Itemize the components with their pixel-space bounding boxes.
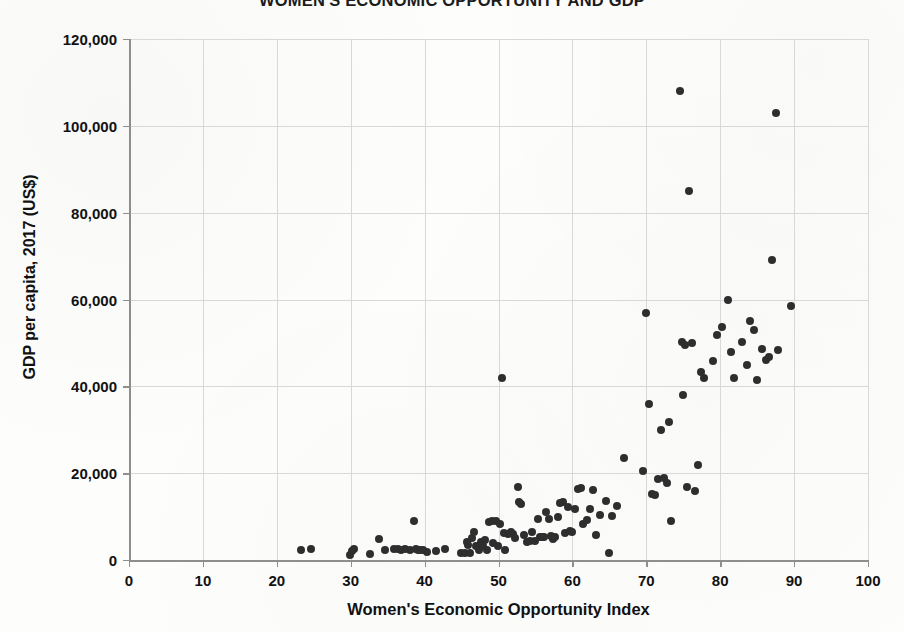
x-axis-tick xyxy=(351,560,352,567)
scatter-point xyxy=(496,520,504,528)
y-axis-tick-label: 120,000 xyxy=(0,31,117,48)
scatter-point xyxy=(645,400,653,408)
x-axis-tick-label: 80 xyxy=(690,572,750,589)
scatter-point xyxy=(718,323,726,331)
gridline-horizontal xyxy=(129,213,868,214)
x-axis-tick-label: 30 xyxy=(321,572,381,589)
gridline-vertical xyxy=(868,39,869,560)
scatter-point xyxy=(685,187,693,195)
scatter-point xyxy=(765,353,773,361)
scatter-point xyxy=(676,87,684,95)
scatter-point xyxy=(688,339,696,347)
x-axis-tick-label: 70 xyxy=(616,572,676,589)
scatter-point xyxy=(768,256,776,264)
y-axis-tick xyxy=(123,39,130,40)
x-axis-tick xyxy=(720,560,721,567)
scatter-point xyxy=(375,535,383,543)
scatter-point xyxy=(651,491,659,499)
x-axis-tick xyxy=(646,560,647,567)
gridline-horizontal xyxy=(129,126,868,127)
scatter-point xyxy=(639,467,647,475)
scatter-point xyxy=(774,346,782,354)
scatter-point xyxy=(694,461,702,469)
x-axis-tick-label: 90 xyxy=(764,572,824,589)
scatter-point xyxy=(724,296,732,304)
scatter-point xyxy=(517,500,525,508)
scatter-point xyxy=(709,357,717,365)
scatter-point xyxy=(753,376,761,384)
x-axis-title: Women's Economic Opportunity Index xyxy=(129,600,868,619)
gridline-horizontal xyxy=(129,473,868,474)
x-axis-tick-label: 60 xyxy=(542,572,602,589)
y-axis-tick-label: 80,000 xyxy=(0,204,117,221)
x-axis-tick xyxy=(203,560,204,567)
scatter-point xyxy=(683,483,691,491)
scatter-point xyxy=(470,528,478,536)
y-axis-tick-label: 0 xyxy=(0,552,117,569)
scatter-point xyxy=(750,326,758,334)
scatter-point xyxy=(423,548,431,556)
scatter-point xyxy=(511,534,519,542)
plot-area xyxy=(129,39,868,560)
x-axis-tick-label: 10 xyxy=(173,572,233,589)
scatter-point xyxy=(366,550,374,558)
scatter-point xyxy=(691,487,699,495)
x-axis-tick-label: 40 xyxy=(395,572,455,589)
x-axis-tick xyxy=(499,560,500,567)
scatter-point xyxy=(551,533,559,541)
scatter-point xyxy=(738,338,746,346)
scatter-point xyxy=(608,512,616,520)
scatter-point xyxy=(679,391,687,399)
scatter-point xyxy=(545,515,553,523)
scatter-point xyxy=(700,374,708,382)
scatter-point xyxy=(642,309,650,317)
scatter-point xyxy=(743,361,751,369)
scatter-point xyxy=(483,546,491,554)
scatter-point xyxy=(665,418,673,426)
gridline-horizontal xyxy=(129,39,868,40)
scatter-point xyxy=(730,374,738,382)
y-axis-tick-label: 40,000 xyxy=(0,378,117,395)
scatter-point xyxy=(583,516,591,524)
scatter-point xyxy=(727,348,735,356)
x-axis-tick-label: 0 xyxy=(99,572,159,589)
scatter-point xyxy=(758,345,766,353)
y-axis-tick-label: 60,000 xyxy=(0,291,117,308)
scatter-point xyxy=(663,479,671,487)
scatter-point xyxy=(534,515,542,523)
scatter-point xyxy=(481,536,489,544)
y-axis-tick xyxy=(123,126,130,127)
chart-title: WOMEN'S ECONOMIC OPPORTUNITY AND GDP xyxy=(0,0,904,10)
y-axis-tick-label: 100,000 xyxy=(0,117,117,134)
y-axis-tick-label: 20,000 xyxy=(0,465,117,482)
scatter-point xyxy=(381,546,389,554)
scatter-point xyxy=(657,426,665,434)
scatter-point xyxy=(667,517,675,525)
scatter-point xyxy=(746,317,754,325)
scatter-point xyxy=(571,505,579,513)
chart-page: WOMEN'S ECONOMIC OPPORTUNITY AND GDP GDP… xyxy=(0,0,904,632)
y-axis-tick xyxy=(123,213,130,214)
scatter-point xyxy=(787,302,795,310)
x-axis-tick xyxy=(794,560,795,567)
scatter-point xyxy=(620,454,628,462)
scatter-point xyxy=(605,549,613,557)
scatter-point xyxy=(586,505,594,513)
x-axis-tick-label: 50 xyxy=(469,572,529,589)
scatter-point xyxy=(772,109,780,117)
y-axis-tick xyxy=(123,300,130,301)
scatter-point xyxy=(350,545,358,553)
scatter-point xyxy=(441,545,449,553)
scatter-point xyxy=(568,528,576,536)
x-axis-tick xyxy=(572,560,573,567)
x-axis-tick xyxy=(868,560,869,567)
scatter-point xyxy=(498,374,506,382)
y-axis-tick xyxy=(123,473,130,474)
scatter-point xyxy=(596,511,604,519)
scatter-point xyxy=(501,546,509,554)
gridline-horizontal xyxy=(129,386,868,387)
scatter-point xyxy=(307,545,315,553)
scatter-point xyxy=(577,484,585,492)
scatter-point xyxy=(432,547,440,555)
x-axis-tick xyxy=(425,560,426,567)
